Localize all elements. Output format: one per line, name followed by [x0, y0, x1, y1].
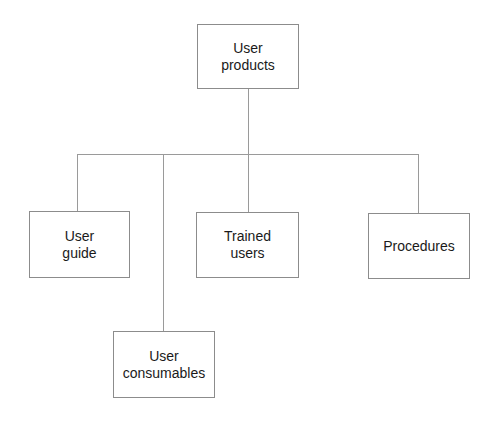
node-label: User consumables — [123, 348, 206, 382]
node-user-products: User products — [197, 24, 299, 89]
node-user-guide: User guide — [29, 211, 130, 278]
root-connector — [248, 88, 249, 154]
node-procedures: Procedures — [368, 213, 470, 279]
connector-trained-users — [248, 154, 249, 212]
node-trained-users: Trained users — [196, 212, 299, 278]
connector-user-guide — [77, 154, 78, 211]
node-label: User guide — [62, 228, 96, 262]
connector-procedures — [418, 154, 419, 213]
node-label: Trained users — [224, 228, 271, 262]
node-user-consumables: User consumables — [113, 331, 215, 398]
node-label: User products — [221, 40, 275, 74]
connector-user-consumables — [163, 154, 164, 331]
node-label: Procedures — [383, 238, 455, 255]
